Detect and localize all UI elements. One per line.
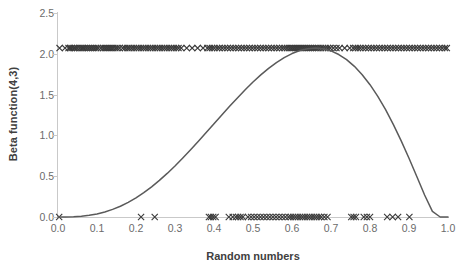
y-tick-mark [53, 176, 57, 177]
sample-marker-x-icon [152, 214, 158, 220]
sample-marker-x-icon [270, 214, 276, 220]
sample-marker-x-icon [333, 45, 339, 51]
sample-marker-x-icon [245, 214, 251, 220]
sample-marker-x-icon [395, 214, 401, 220]
sample-marker-x-icon [276, 214, 282, 220]
sample-marker-x-icon [260, 214, 266, 220]
sample-marker-x-icon [189, 45, 195, 51]
y-tick-mark [53, 13, 57, 14]
sample-marker-x-icon [138, 214, 144, 220]
sample-marker-x-icon [267, 214, 273, 220]
sample-marker-x-icon [367, 214, 373, 220]
sample-marker-x-icon [390, 214, 396, 220]
sample-marker-x-icon [264, 214, 270, 220]
beta-function-chart: Beta function(4,3) 0.00.51.01.52.02.5 0.… [0, 0, 465, 274]
sample-marker-x-icon [56, 45, 62, 51]
sample-marker-x-icon [361, 214, 367, 220]
x-axis-title: Random numbers [58, 250, 448, 262]
sample-marker-x-icon [230, 214, 236, 220]
sample-marker-x-icon [251, 214, 257, 220]
y-tick-mark [53, 95, 57, 96]
y-tick-mark [53, 135, 57, 136]
sample-marker-x-icon [321, 214, 327, 220]
sample-marker-x-icon [324, 214, 330, 220]
plot-area [0, 0, 465, 274]
sample-marker-x-icon [384, 214, 390, 220]
sample-marker-x-icon [257, 214, 263, 220]
y-tick-mark [53, 217, 57, 218]
sample-marker-x-icon [347, 45, 353, 51]
sample-marker-x-icon [195, 45, 201, 51]
beta-density-curve [58, 48, 448, 217]
sample-marker-x-icon [254, 214, 260, 220]
y-tick-mark [53, 54, 57, 55]
sample-marker-x-icon [364, 214, 370, 220]
sample-marker-x-icon [282, 214, 288, 220]
sample-marker-x-icon [406, 214, 412, 220]
baseline-sample-markers [56, 214, 412, 220]
sample-marker-x-icon [279, 214, 285, 220]
sample-marker-x-icon [248, 214, 254, 220]
upper-sample-markers [56, 45, 449, 51]
sample-marker-x-icon [273, 214, 279, 220]
sample-marker-x-icon [184, 45, 190, 51]
